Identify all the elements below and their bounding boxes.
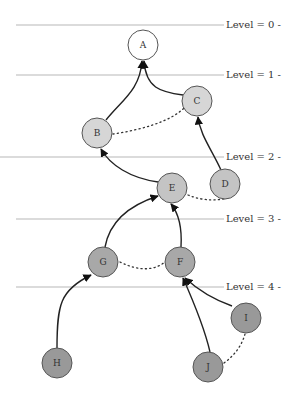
node-e-label: E — [169, 183, 176, 193]
node-f[interactable]: F — [165, 247, 195, 277]
edge-i-f — [185, 278, 232, 306]
edge-g-e — [105, 196, 158, 247]
node-c[interactable]: C — [182, 86, 212, 116]
node-j-label: J — [205, 362, 210, 372]
level-4: Level = 4 - — [16, 281, 281, 292]
node-f-label: F — [177, 257, 183, 267]
node-h[interactable]: H — [42, 348, 72, 378]
level-2: Level = 2 - — [0, 151, 281, 162]
node-h-label: H — [53, 358, 61, 368]
edge-f-e — [171, 204, 181, 247]
level-1-label: Level = 1 - — [226, 69, 281, 80]
node-g-label: G — [99, 257, 106, 267]
edge-d-c — [198, 117, 221, 170]
dotted-j-i — [224, 334, 245, 363]
edge-c-a — [144, 61, 183, 95]
node-b-label: B — [94, 128, 101, 138]
level-0-label: Level = 0 - — [226, 19, 281, 30]
node-a[interactable]: A — [128, 30, 158, 60]
node-g[interactable]: G — [88, 247, 118, 277]
edge-b-a — [106, 61, 142, 120]
dotted-b-c — [113, 108, 184, 134]
level-4-label: Level = 4 - — [226, 281, 281, 292]
level-3-label: Level = 3 - — [226, 213, 281, 224]
level-0: Level = 0 - — [16, 19, 281, 30]
node-b[interactable]: B — [82, 118, 112, 148]
dotted-g-f — [120, 262, 165, 269]
edge-e-b — [101, 149, 158, 182]
node-e[interactable]: E — [157, 173, 187, 203]
node-d-label: D — [221, 179, 228, 189]
node-j[interactable]: J — [193, 352, 223, 382]
node-c-label: C — [194, 96, 201, 106]
node-i-label: I — [244, 313, 248, 323]
edge-j-f — [183, 278, 210, 352]
node-d[interactable]: D — [210, 169, 240, 199]
edge-h-g — [57, 275, 91, 348]
node-a-label: A — [139, 40, 147, 50]
node-i[interactable]: I — [231, 303, 261, 333]
tree-diagram: Level = 0 - Level = 1 - Level = 2 - Leve… — [0, 0, 289, 400]
level-2-label: Level = 2 - — [226, 151, 281, 162]
level-3: Level = 3 - — [16, 213, 281, 224]
